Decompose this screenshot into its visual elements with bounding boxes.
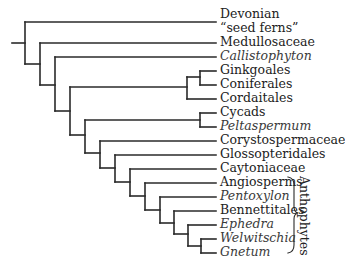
taxon-label-cycads: Cycads (220, 105, 266, 119)
taxon-label-callistophyton: Callistophyton (220, 49, 312, 63)
taxon-label-coniferales: Coniferales (220, 77, 292, 91)
taxon-label-angiosperms: Angiosperms (220, 175, 303, 189)
taxon-label-glossopteridales: Glossopteridales (220, 147, 326, 161)
taxon-label-caytoniaceae: Caytoniaceae (220, 161, 305, 175)
taxon-label-cordaitales: Cordaitales (220, 91, 293, 105)
group-label-anthophytes: Anthophytes (297, 176, 312, 256)
taxon-label-bennettitales: Bennettitales (220, 203, 304, 217)
taxon-label-devonian: Devonian (220, 7, 280, 21)
taxon-label-ginkgoales: Ginkgoales (220, 63, 290, 77)
taxon-label-ephedra: Ephedra (220, 217, 274, 231)
taxon-label-corystospermaceae: Corystospermaceae (220, 133, 345, 147)
taxon-label-pentoxylon: Pentoxylon (220, 189, 290, 203)
taxon-label-peltaspermum: Peltaspermum (220, 119, 311, 133)
taxon-label-gnetum: Gnetum (220, 245, 270, 259)
taxon-label-welwitschia: Welwitschia (220, 231, 296, 245)
taxon-label-seed-ferns: “seed ferns” (220, 21, 298, 35)
taxon-label-medullosaceae: Medullosaceae (220, 35, 315, 49)
